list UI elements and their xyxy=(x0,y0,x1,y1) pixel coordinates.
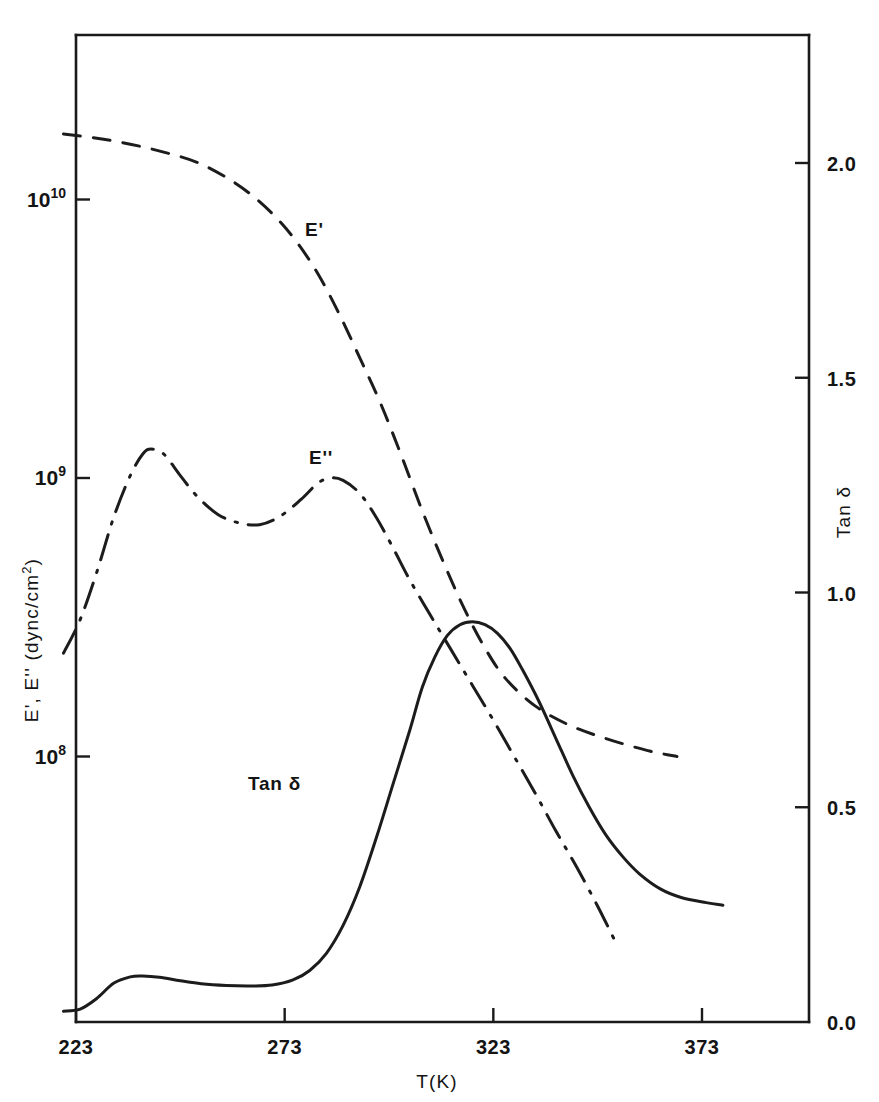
curve-e-prime xyxy=(63,134,676,757)
x-axis-title: T(K) xyxy=(416,1071,458,1092)
x-axis-ticks xyxy=(76,1008,702,1022)
x-tick-label-323: 323 xyxy=(476,1036,511,1058)
chart-canvas: 1081091010 0.00.51.01.52.0 223273323373 … xyxy=(0,0,879,1102)
left-axis-ticks xyxy=(76,200,90,757)
x-tick-label-373: 373 xyxy=(685,1036,720,1058)
curve-label-e-prime: E' xyxy=(305,219,324,240)
right-axis-tick-labels: 0.00.51.01.52.0 xyxy=(827,153,856,1034)
data-curves xyxy=(63,134,722,1011)
dma-figure: 1081091010 0.00.51.01.52.0 223273323373 … xyxy=(0,0,879,1102)
axis-frame xyxy=(76,35,809,1022)
curve-labels: E' E'' Tan δ xyxy=(248,219,333,794)
right-tick-label-2.0: 2.0 xyxy=(827,153,856,175)
axis-titles: T(K) E', E'' (dync/cm2) Tan δ xyxy=(19,486,854,1092)
curve-label-tan-delta: Tan δ xyxy=(248,773,301,794)
right-axis-ticks xyxy=(795,163,809,807)
x-tick-label-273: 273 xyxy=(267,1036,302,1058)
x-axis-tick-labels: 223273323373 xyxy=(59,1036,720,1058)
x-tick-label-223: 223 xyxy=(59,1036,94,1058)
right-tick-label-0.0: 0.0 xyxy=(827,1012,856,1034)
left-tick-label-10: 1010 xyxy=(27,185,66,211)
curve-tan-delta xyxy=(63,622,722,1012)
right-tick-label-1.5: 1.5 xyxy=(827,368,856,390)
curve-e-double-prime xyxy=(63,449,614,940)
curve-label-e-double-prime: E'' xyxy=(309,447,333,468)
right-tick-label-0.5: 0.5 xyxy=(827,797,856,819)
left-axis-title: E', E'' (dync/cm2) xyxy=(19,558,42,722)
right-tick-label-1.0: 1.0 xyxy=(827,583,856,605)
left-tick-label-8: 108 xyxy=(35,742,66,768)
left-tick-label-9: 109 xyxy=(35,463,66,489)
right-axis-title: Tan δ xyxy=(833,486,854,539)
